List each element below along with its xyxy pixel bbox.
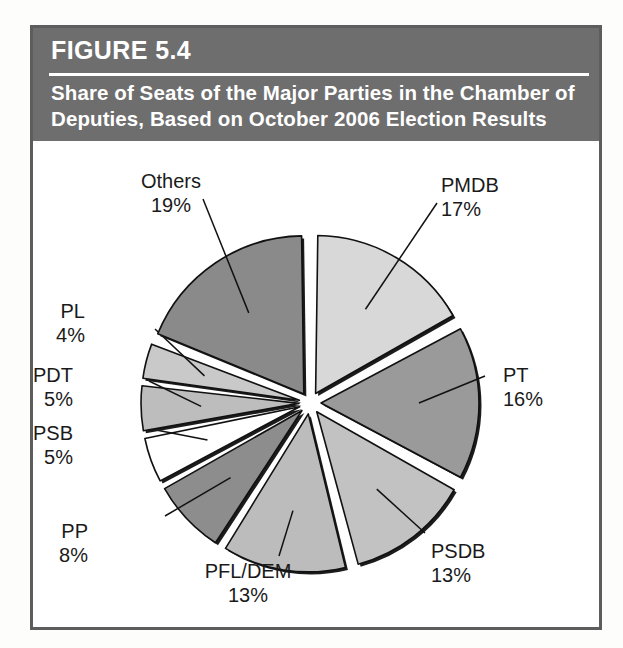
pie-label-pdt: PDT5%: [33, 363, 73, 411]
figure-header: FIGURE 5.4 Share of Seats of the Major P…: [33, 28, 599, 141]
pie-label-value: 13%: [205, 583, 292, 607]
pie-label-value: 13%: [431, 563, 485, 587]
pie-label-psb: PSB5%: [33, 421, 73, 469]
pie-label-name: PMDB: [441, 173, 499, 197]
pie-label-name: PSB: [33, 421, 73, 445]
pie-label-psdb: PSDB13%: [431, 539, 485, 587]
pie-label-value: 17%: [441, 197, 499, 221]
pie-label-pfl-dem: PFL/DEM13%: [205, 559, 292, 607]
figure-number: FIGURE 5.4: [51, 36, 191, 65]
pie-label-value: 5%: [33, 387, 73, 411]
pie-label-name: PDT: [33, 363, 73, 387]
pie-label-value: 5%: [33, 445, 73, 469]
pie-label-value: 16%: [503, 387, 543, 411]
pie-label-name: PP: [59, 519, 88, 543]
pie-label-pt: PT16%: [503, 363, 543, 411]
pie-label-name: Others: [141, 169, 201, 193]
pie-label-name: PFL/DEM: [205, 559, 292, 583]
pie-label-name: PSDB: [431, 539, 485, 563]
pie-label-pl: PL4%: [56, 299, 85, 347]
pie-label-others: Others19%: [141, 169, 201, 217]
pie-chart-area: PMDB17%PT16%PSDB13%PFL/DEM13%PP8%PSB5%PD…: [33, 141, 599, 627]
pie-label-value: 4%: [56, 323, 85, 347]
header-divider: [49, 73, 589, 76]
figure-root: FIGURE 5.4 Share of Seats of the Major P…: [0, 0, 623, 648]
pie-label-value: 19%: [141, 193, 201, 217]
pie-label-pmdb: PMDB17%: [441, 173, 499, 221]
figure-frame: FIGURE 5.4 Share of Seats of the Major P…: [30, 25, 602, 630]
pie-label-value: 8%: [59, 543, 88, 567]
pie-label-name: PT: [503, 363, 543, 387]
pie-label-pp: PP8%: [59, 519, 88, 567]
figure-title: Share of Seats of the Major Parties in t…: [51, 80, 589, 132]
pie-label-name: PL: [56, 299, 85, 323]
